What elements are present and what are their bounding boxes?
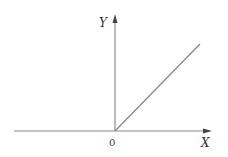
x-axis-label: X bbox=[201, 136, 210, 150]
origin-label: 0 bbox=[109, 137, 115, 148]
y-axis bbox=[113, 14, 118, 131]
y-axis-label: Y bbox=[99, 16, 107, 30]
relu-plot bbox=[0, 0, 228, 157]
relu-positive-segment bbox=[115, 44, 200, 131]
x-axis-arrow-icon bbox=[203, 129, 212, 134]
y-axis-arrow-icon bbox=[113, 14, 118, 23]
x-axis bbox=[14, 129, 212, 134]
